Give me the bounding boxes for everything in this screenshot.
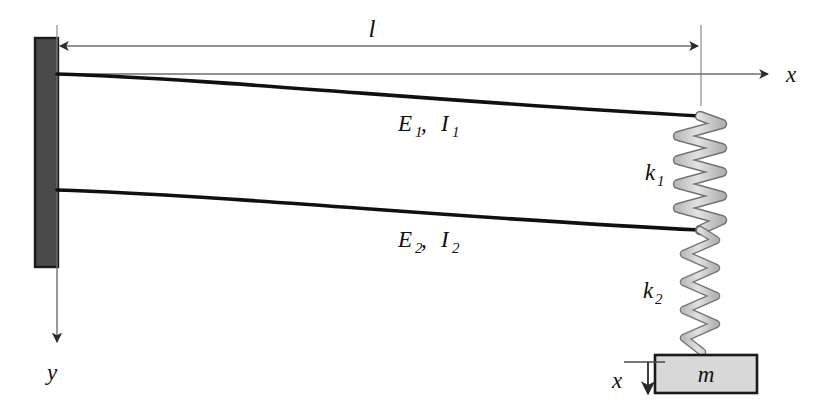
fixed-support-wall <box>35 38 58 267</box>
mass-label: m <box>698 362 715 387</box>
beam2-E-symbol: E <box>397 227 412 252</box>
beam2-separator: , <box>421 227 427 252</box>
beam2-I-symbol: I <box>440 227 450 252</box>
beam2-I-subscript: 2 <box>452 240 460 256</box>
length-label: l <box>369 15 376 42</box>
beam1-I-subscript: 1 <box>452 124 460 140</box>
spring-k1 <box>678 116 722 230</box>
beam1-E-symbol: E <box>397 111 412 136</box>
figure-canvas: l x y E 1 , I 1 E 2 , I 2 k 1 k 2 <box>0 0 832 419</box>
spring-k2 <box>684 230 716 352</box>
spring1-subscript: 1 <box>657 173 665 189</box>
spring2-k-symbol: k <box>643 278 654 303</box>
displacement-x-label: x <box>611 368 623 393</box>
schematic-svg: l x y E 1 , I 1 E 2 , I 2 k 1 k 2 <box>0 0 832 419</box>
x-axis-label: x <box>785 62 797 87</box>
lower-beam <box>57 190 700 230</box>
spring1-k-symbol: k <box>645 160 656 185</box>
spring2-label: k 2 <box>643 278 663 307</box>
beam1-separator: , <box>421 111 427 136</box>
beam1-label: E 1 , I 1 <box>397 111 460 140</box>
y-axis-label: y <box>45 360 58 385</box>
spring2-subscript: 2 <box>655 291 663 307</box>
beam2-label: E 2 , I 2 <box>397 227 460 256</box>
beam1-I-symbol: I <box>440 111 450 136</box>
spring1-label: k 1 <box>645 160 665 189</box>
upper-beam <box>57 74 700 116</box>
